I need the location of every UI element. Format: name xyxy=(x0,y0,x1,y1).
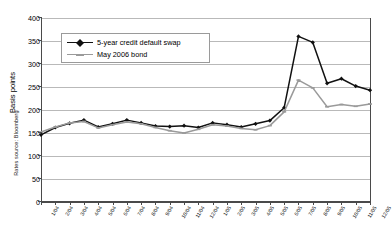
x-tick-label-0: 1/04 xyxy=(50,205,60,217)
x-tick-label-17: 6/05 xyxy=(293,205,303,217)
data-point-cds-9 xyxy=(168,124,172,128)
y-axis-tick-labels: 050100150200250300350400 xyxy=(14,0,40,247)
data-point-bond-4 xyxy=(96,127,100,129)
data-point-bond-23 xyxy=(368,103,372,105)
data-point-bond-13 xyxy=(225,125,229,127)
x-axis-tick-labels: 1/042/043/044/045/046/047/048/049/0410/0… xyxy=(41,205,371,247)
data-point-cds-10 xyxy=(182,124,186,128)
data-point-bond-18 xyxy=(296,79,300,81)
data-point-bond-21 xyxy=(339,104,343,106)
gridline-0 xyxy=(41,202,371,203)
legend-label-bond: May 2006 bond xyxy=(97,50,147,59)
x-tick-label-18: 7/05 xyxy=(307,205,317,217)
data-point-cds-15 xyxy=(253,122,257,126)
y-tick-mark-50 xyxy=(38,178,42,179)
x-tick-label-15: 4/05 xyxy=(264,205,274,217)
y-tick-250: 250 xyxy=(28,83,40,92)
data-point-bond-19 xyxy=(311,87,315,89)
legend-label-cds: 5-year credit default swap xyxy=(97,38,181,47)
y-tick-mark-400 xyxy=(38,17,42,18)
data-point-cds-18 xyxy=(296,34,300,38)
x-tick-label-14: 3/05 xyxy=(250,205,260,217)
x-tick-label-23: 12/05 xyxy=(380,205,392,219)
data-point-bond-15 xyxy=(254,129,258,131)
data-point-bond-10 xyxy=(182,132,186,134)
legend-swatch-cds xyxy=(67,38,93,47)
data-point-bond-1 xyxy=(53,126,57,128)
data-point-bond-12 xyxy=(211,124,215,126)
data-point-bond-8 xyxy=(153,127,157,129)
data-point-bond-2 xyxy=(68,122,72,124)
x-tick-label-20: 9/05 xyxy=(336,205,346,217)
chart-legend: 5-year credit default swap May 2006 bond xyxy=(61,33,210,63)
x-tick-label-7: 8/04 xyxy=(150,205,160,217)
legend-entry-cds: 5-year credit default swap xyxy=(67,36,181,48)
x-tick-label-2: 3/04 xyxy=(78,205,88,217)
y-tick-400: 400 xyxy=(28,14,40,23)
data-point-bond-3 xyxy=(82,121,86,123)
dash-marker-icon xyxy=(76,51,84,59)
y-tick-200: 200 xyxy=(28,106,40,115)
data-point-bond-6 xyxy=(125,121,129,123)
x-tick-label-8: 9/04 xyxy=(164,205,174,217)
y-tick-mark-150 xyxy=(38,132,42,133)
data-point-bond-14 xyxy=(239,128,243,130)
x-tick-label-9: 10/04 xyxy=(180,205,192,219)
data-point-bond-11 xyxy=(196,129,200,131)
x-tick-label-4: 5/04 xyxy=(107,205,117,217)
data-point-bond-17 xyxy=(282,111,286,113)
y-tick-mark-200 xyxy=(38,109,42,110)
diamond-marker-icon xyxy=(76,39,84,47)
x-tick-label-6: 7/04 xyxy=(136,205,146,217)
data-point-cds-23 xyxy=(368,88,372,92)
data-point-cds-19 xyxy=(311,40,315,44)
x-tick-label-5: 6/04 xyxy=(121,205,131,217)
data-point-bond-16 xyxy=(268,125,272,127)
y-tick-0: 0 xyxy=(36,198,40,207)
data-point-cds-20 xyxy=(325,81,329,85)
legend-swatch-bond xyxy=(67,50,93,59)
data-point-bond-22 xyxy=(354,106,358,108)
x-tick-label-16: 5/05 xyxy=(279,205,289,217)
x-tick-label-10: 11/04 xyxy=(194,205,206,219)
x-tick-label-11: 12/04 xyxy=(208,205,220,219)
legend-entry-bond: May 2006 bond xyxy=(67,48,147,60)
x-tick-label-3: 4/04 xyxy=(93,205,103,217)
y-tick-mark-100 xyxy=(38,155,42,156)
y-tick-300: 300 xyxy=(28,60,40,69)
x-tick-label-22: 11/05 xyxy=(366,205,378,219)
y-tick-mark-300 xyxy=(38,63,42,64)
x-tick-label-13: 2/05 xyxy=(236,205,246,217)
y-tick-350: 350 xyxy=(28,37,40,46)
x-tick-label-12: 1/05 xyxy=(221,205,231,217)
y-tick-mark-250 xyxy=(38,86,42,87)
data-point-bond-5 xyxy=(111,124,115,126)
y-tick-100: 100 xyxy=(28,152,40,161)
data-point-bond-20 xyxy=(325,106,329,108)
y-tick-150: 150 xyxy=(28,129,40,138)
data-point-bond-9 xyxy=(168,130,172,132)
x-tick-label-19: 8/05 xyxy=(322,205,332,217)
y-tick-mark-350 xyxy=(38,40,42,41)
x-tick-label-21: 10/05 xyxy=(351,205,363,219)
data-point-bond-7 xyxy=(139,123,143,125)
x-tick-label-1: 2/04 xyxy=(64,205,74,217)
y-tick-50: 50 xyxy=(32,175,40,184)
